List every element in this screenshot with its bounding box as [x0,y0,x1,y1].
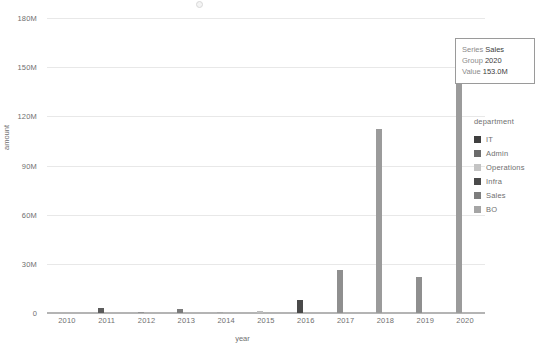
bar[interactable] [376,129,382,313]
x-axis-tick-label: 2011 [98,316,115,325]
top-marker-icon [196,1,203,8]
x-axis-tick-label: 2020 [456,316,474,325]
bar[interactable] [416,277,422,313]
bar[interactable] [337,270,343,313]
x-axis-title: year [0,334,485,343]
legend-item-label: Infra [486,177,502,186]
legend: department ITAdminOperationsInfraSalesBO [474,117,542,216]
gridline [47,313,485,314]
x-axis-tick-label: 2019 [417,316,435,325]
legend-item-label: Operations [486,163,525,172]
x-axis-tick-label: 2012 [138,316,156,325]
y-axis-tick-label: 90M [22,161,37,170]
tooltip-value: 2020 [485,56,502,65]
legend-item[interactable]: Operations [474,160,542,174]
gridline [47,116,485,117]
plot-area [47,18,485,313]
bar[interactable] [98,308,104,313]
bar[interactable] [138,312,144,313]
bar[interactable] [257,311,263,313]
y-axis-tick-label: 120M [17,112,37,121]
y-axis-tick-label: 60M [22,210,37,219]
x-axis-tick-label: 2016 [297,316,315,325]
legend-item[interactable]: Admin [474,146,542,160]
tooltip-row: Group 2020 [462,55,528,66]
x-axis-tick-label: 2013 [178,316,196,325]
x-axis-tick-label: 2017 [337,316,355,325]
gridline [47,67,485,68]
bar[interactable] [456,62,462,313]
tooltip-key: Group [462,56,485,65]
legend-item-label: BO [486,205,497,214]
legend-swatch-icon [474,150,481,157]
tooltip-row: Series Sales [462,44,528,55]
tooltip-value: 153.0M [483,67,508,76]
tooltip-key: Value [462,67,483,76]
y-axis-tick-label: 30M [22,259,37,268]
x-axis-tick-labels: 2010201120122013201420152016201720182019… [47,316,485,332]
y-axis-tick-label: 150M [17,63,37,72]
x-axis-tick-label: 2014 [217,316,235,325]
legend-swatch-icon [474,136,481,143]
legend-item[interactable]: Sales [474,188,542,202]
gridline [47,264,485,265]
legend-item[interactable]: IT [474,132,542,146]
legend-title: department [474,117,542,126]
legend-swatch-icon [474,192,481,199]
bar[interactable] [217,312,223,313]
legend-item-label: Admin [486,149,508,158]
legend-item-label: IT [486,135,493,144]
bar[interactable] [177,309,183,313]
tooltip-row: Value 153.0M [462,66,528,77]
gridline [47,18,485,19]
legend-item[interactable]: Infra [474,174,542,188]
tooltip-key: Series [462,45,485,54]
gridline [47,215,485,216]
bar[interactable] [297,300,303,313]
legend-item-label: Sales [486,191,506,200]
x-axis-tick-label: 2015 [257,316,275,325]
bar-chart: amount 030M60M90M120M150M180M 2010201120… [0,0,542,355]
gridline [47,166,485,167]
tooltip-value: Sales [485,45,504,54]
tooltip: Series SalesGroup 2020Value 153.0M [455,38,535,84]
legend-item[interactable]: BO [474,202,542,216]
legend-swatch-icon [474,164,481,171]
y-axis-tick-label: 180M [17,14,37,23]
y-axis-tick-label: 0 [33,309,37,318]
legend-swatch-icon [474,178,481,185]
x-axis-tick-label: 2018 [377,316,395,325]
legend-swatch-icon [474,206,481,213]
x-axis-tick-label: 2010 [58,316,76,325]
y-axis-tick-labels: 030M60M90M120M150M180M [0,18,42,313]
